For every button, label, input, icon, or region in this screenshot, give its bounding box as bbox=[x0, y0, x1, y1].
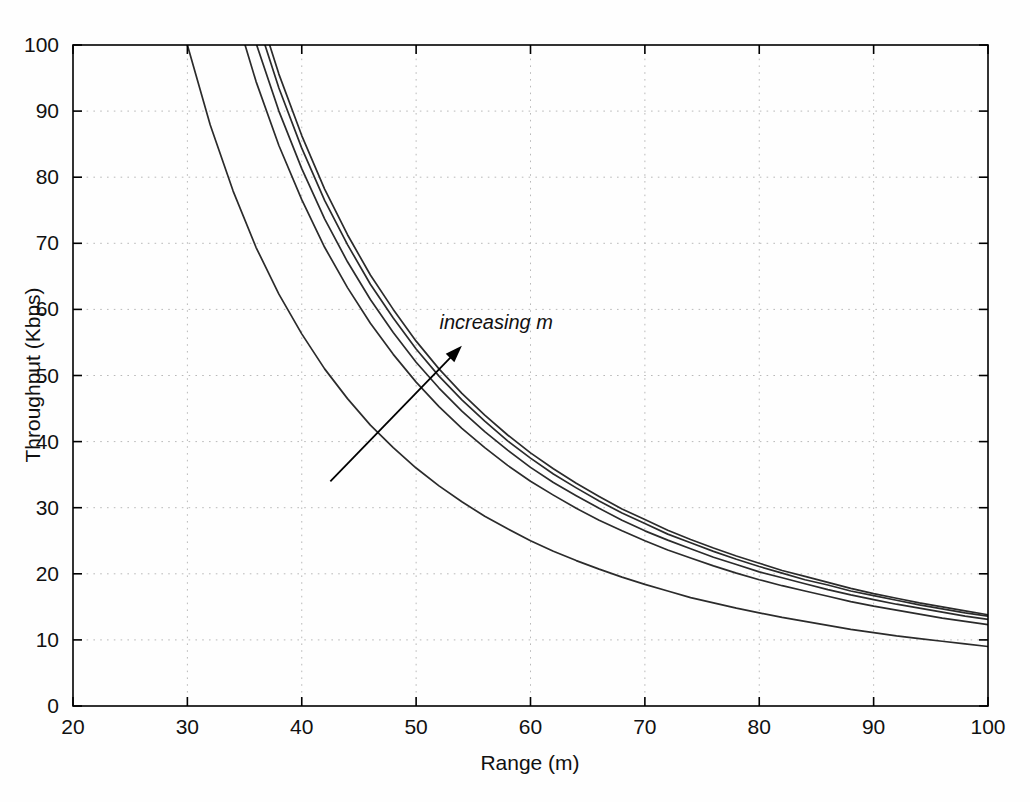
gridlines bbox=[73, 45, 988, 706]
y-axis-title: Throughput (Kbps) bbox=[21, 287, 44, 462]
x-tick-labels: 2030405060708090100 bbox=[61, 715, 1005, 738]
x-axis-title: Range (m) bbox=[480, 751, 579, 774]
x-tick-label: 60 bbox=[519, 715, 542, 738]
x-tick-label: 20 bbox=[61, 715, 84, 738]
annotation-arrow-line bbox=[330, 355, 452, 481]
curve-m-4 bbox=[73, 0, 988, 616]
y-tick-label: 70 bbox=[36, 231, 59, 254]
chart-figure: 2030405060708090100 01020304050607080901… bbox=[0, 0, 1030, 802]
x-tick-label: 30 bbox=[176, 715, 199, 738]
x-tick-label: 90 bbox=[862, 715, 885, 738]
y-tick-label: 90 bbox=[36, 99, 59, 122]
y-tick-label: 0 bbox=[47, 694, 59, 717]
y-tick-label: 30 bbox=[36, 496, 59, 519]
x-tick-label: 40 bbox=[290, 715, 313, 738]
throughput-range-plot: 2030405060708090100 01020304050607080901… bbox=[0, 0, 1030, 802]
x-tick-label: 50 bbox=[404, 715, 427, 738]
annotation-label: increasing m bbox=[439, 311, 552, 333]
y-tick-label: 10 bbox=[36, 628, 59, 651]
x-tick-label: 100 bbox=[970, 715, 1005, 738]
y-tick-label: 20 bbox=[36, 562, 59, 585]
x-tick-label: 80 bbox=[748, 715, 771, 738]
y-tick-label: 100 bbox=[24, 33, 59, 56]
x-tick-label: 70 bbox=[633, 715, 656, 738]
y-tick-label: 80 bbox=[36, 165, 59, 188]
annotation-increasing-m: increasing m bbox=[330, 311, 553, 481]
